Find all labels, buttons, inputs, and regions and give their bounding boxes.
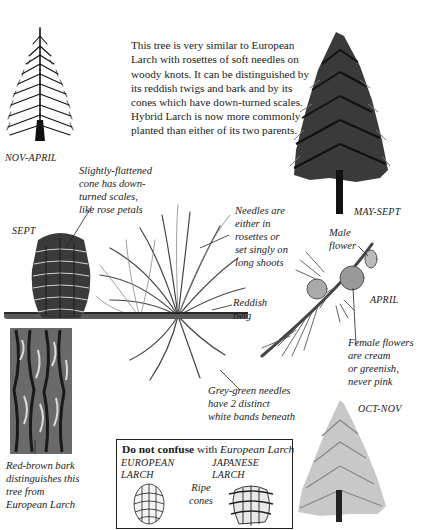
autumn-tree-illustration xyxy=(298,400,386,522)
annotation-line: Reddish xyxy=(233,296,267,309)
male-flower-illustration xyxy=(365,250,377,268)
annotation-line: have 2 distinct xyxy=(208,397,295,410)
hybrid-cone-illustration xyxy=(32,233,91,318)
confuse-cones xyxy=(117,440,294,530)
annotation-line: Needles are xyxy=(235,204,288,217)
annotation-line: Female flowers xyxy=(348,336,414,349)
annotation-line: tree from xyxy=(6,485,79,498)
needle-rosette-illustration xyxy=(96,205,245,380)
season-label-flowers: APRIL xyxy=(370,294,398,305)
intro-paragraph: This tree is very similar to European La… xyxy=(131,38,311,137)
annotation-line: are cream xyxy=(348,349,414,362)
annotation-line: twig xyxy=(233,309,267,322)
annotation-line: Red-brown bark xyxy=(6,459,79,472)
annotation-male-flower: Male flower xyxy=(329,226,356,252)
annotation-line: never pink xyxy=(348,375,414,388)
annotation-line: cone has down- xyxy=(79,177,152,190)
annotation-bark: Red-brown bark distinguishes this tree f… xyxy=(6,459,79,511)
annotation-twig: Reddish twig xyxy=(233,296,267,322)
do-not-confuse-box: Do not confuse with European Larch EUROP… xyxy=(116,439,293,529)
annotation-line: or greenish, xyxy=(348,362,414,375)
annotation-line: Male xyxy=(329,226,356,239)
annotation-needles: Needles are either in rosettes or set si… xyxy=(235,204,288,269)
annotation-female-flowers: Female flowers are cream or greenish, ne… xyxy=(348,336,414,388)
season-label-autumn: OCT-NOV xyxy=(358,403,401,414)
leader-lines xyxy=(35,206,368,454)
annotation-cone: Slightly-flattened cone has down- turned… xyxy=(79,164,152,216)
annotation-line: rosettes or xyxy=(235,230,288,243)
annotation-line: distinguishes this xyxy=(6,472,79,485)
winter-tree-illustration xyxy=(7,28,73,141)
season-label-cone: SEPT xyxy=(12,225,36,236)
annotation-line: long shoots xyxy=(235,256,288,269)
annotation-line: set singly on xyxy=(235,243,288,256)
annotation-grey-needles: Grey-green needles have 2 distinct white… xyxy=(208,384,295,423)
annotation-line: Slightly-flattened xyxy=(79,164,152,177)
bark-illustration xyxy=(10,328,72,454)
annotation-line: white bands beneath xyxy=(208,410,295,423)
annotation-line: European Larch xyxy=(6,498,79,511)
season-label-summer: MAY-SEPT xyxy=(354,206,400,217)
annotation-line: either in xyxy=(235,217,288,230)
japanese-larch-cone-illustration xyxy=(229,486,273,526)
annotation-line: turned scales, xyxy=(79,190,152,203)
annotation-line: flower xyxy=(329,239,356,252)
female-flower-illustration xyxy=(307,279,327,299)
annotation-line: like rose petals xyxy=(79,203,152,216)
season-label-winter: NOV-APRIL xyxy=(5,152,57,163)
annotation-line: Grey-green needles xyxy=(208,384,295,397)
european-larch-cone-illustration xyxy=(134,484,164,524)
